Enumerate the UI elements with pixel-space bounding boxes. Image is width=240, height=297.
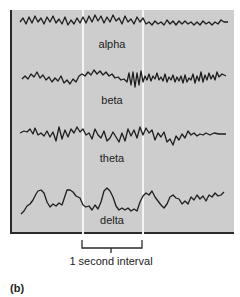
interval-label: 1 second interval	[69, 255, 152, 267]
interval-bracket	[0, 0, 240, 260]
figure-label: (b)	[10, 282, 24, 294]
